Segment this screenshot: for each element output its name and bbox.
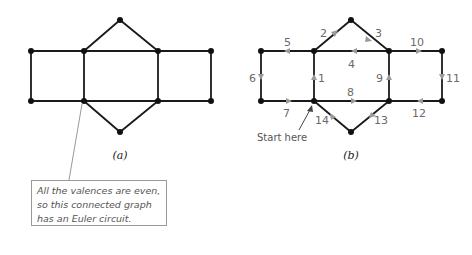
start-pointer-arrow-icon (307, 105, 313, 112)
svg-text:3: 3 (375, 27, 382, 40)
svg-text:6: 6 (249, 72, 256, 85)
vertices-a (28, 17, 214, 135)
svg-text:4: 4 (348, 58, 355, 71)
callout-line: has an Euler circuit. (37, 212, 161, 226)
svg-text:10: 10 (410, 36, 424, 49)
graph-b: 1 2 3 4 5 6 7 8 9 10 11 12 13 14 Start h… (249, 17, 460, 162)
caption-b: (b) (343, 149, 359, 162)
svg-text:13: 13 (374, 114, 388, 127)
edge-labels: 1 2 3 4 5 6 7 8 9 10 11 12 13 14 (249, 27, 460, 127)
graph-a: (a) (28, 17, 214, 180)
callout-line: so this connected graph (37, 198, 161, 212)
callout-line: All the valences are even, (37, 184, 161, 198)
callout-leader-line (69, 104, 82, 180)
svg-text:9: 9 (376, 72, 383, 85)
svg-text:12: 12 (412, 107, 426, 120)
svg-text:1: 1 (318, 72, 325, 85)
caption-a: (a) (112, 149, 127, 162)
svg-text:11: 11 (446, 72, 460, 85)
callout-box: All the valences are even, so this conne… (31, 180, 167, 226)
start-here-label: Start here (257, 132, 307, 143)
svg-text:7: 7 (283, 107, 290, 120)
svg-text:14: 14 (315, 114, 329, 127)
svg-text:8: 8 (347, 86, 354, 99)
svg-text:5: 5 (284, 36, 291, 49)
svg-text:2: 2 (320, 27, 327, 40)
